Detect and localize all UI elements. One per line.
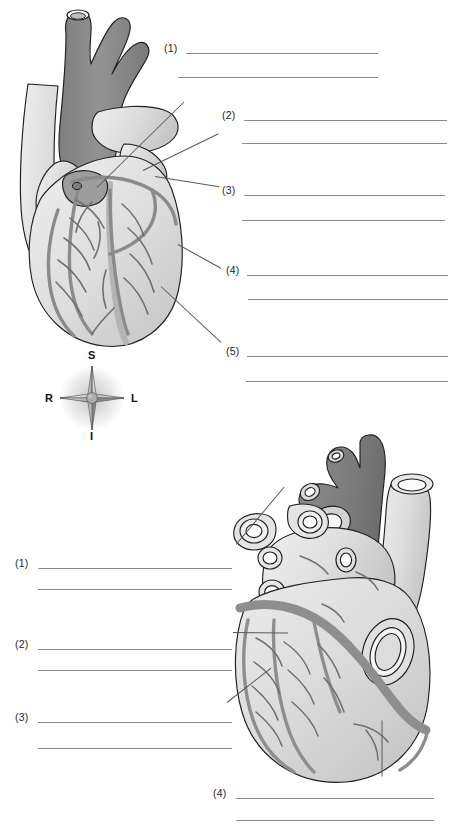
answer-rule-top-5b[interactable] xyxy=(246,381,448,382)
answer-rule-top-1b[interactable] xyxy=(178,77,378,78)
anterior-view-of-heart xyxy=(6,4,221,354)
label-number-bottom-3: (3) xyxy=(15,712,28,723)
orientation-compass-rose: S I R L xyxy=(46,352,142,444)
answer-rule-bottom-3a[interactable] xyxy=(38,722,232,723)
answer-rule-top-5a[interactable] xyxy=(247,356,448,357)
answer-rule-top-2a[interactable] xyxy=(244,120,447,121)
compass-glow xyxy=(60,366,124,430)
compass-label-left: L xyxy=(131,393,138,404)
posterior-view-of-heart xyxy=(228,430,452,800)
label-number-top-5: (5) xyxy=(226,346,239,357)
answer-rule-bottom-3b[interactable] xyxy=(38,748,232,749)
answer-rule-top-1a[interactable] xyxy=(186,53,378,54)
answer-rule-top-3b[interactable] xyxy=(242,220,445,221)
answer-rule-top-4a[interactable] xyxy=(247,275,448,276)
worksheet-page: (1) (2) (3) (4) (5) xyxy=(0,0,452,833)
anterior-heart-illustration xyxy=(6,4,221,354)
answer-rule-top-4b[interactable] xyxy=(248,299,448,300)
label-number-bottom-1: (1) xyxy=(15,558,28,569)
compass-label-right: R xyxy=(45,393,53,404)
answer-rule-top-2b[interactable] xyxy=(242,143,447,144)
label-number-top-3: (3) xyxy=(222,185,235,196)
leader-line-bottom-4 xyxy=(382,721,383,777)
posterior-heart-illustration xyxy=(228,430,452,800)
label-number-bottom-4: (4) xyxy=(213,788,226,799)
label-number-top-1: (1) xyxy=(164,43,177,54)
answer-rule-bottom-1b[interactable] xyxy=(38,589,232,590)
label-number-bottom-2: (2) xyxy=(15,639,28,650)
aortic-root-opening xyxy=(72,182,81,189)
answer-rule-bottom-4b[interactable] xyxy=(236,820,434,821)
label-number-top-4: (4) xyxy=(226,265,239,276)
compass-label-inferior: I xyxy=(90,431,93,442)
label-number-top-2: (2) xyxy=(222,110,235,121)
answer-rule-bottom-1a[interactable] xyxy=(38,568,232,569)
answer-rule-bottom-4a[interactable] xyxy=(236,798,434,799)
answer-rule-top-3a[interactable] xyxy=(244,195,445,196)
answer-rule-bottom-2b[interactable] xyxy=(38,670,232,671)
answer-rule-bottom-2a[interactable] xyxy=(38,649,232,650)
compass-label-superior: S xyxy=(88,350,95,361)
vessel-cut-lumen-inner xyxy=(71,13,86,19)
